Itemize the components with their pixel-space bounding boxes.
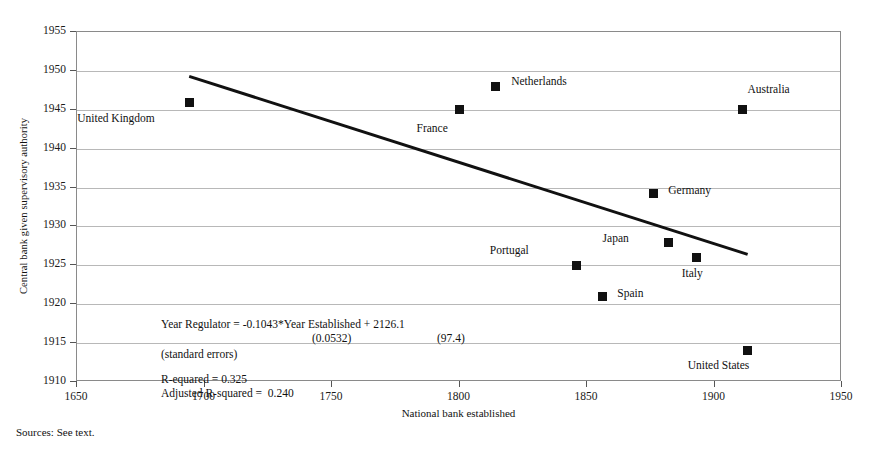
data-point-label: United Kingdom <box>77 112 155 125</box>
x-tick-mark <box>331 381 332 387</box>
annotation-r-squared: R-equared = 0.325 <box>161 373 247 386</box>
source-note: Sources: See text. <box>16 425 95 439</box>
gridline <box>77 149 840 150</box>
x-tick-label: 1750 <box>301 389 361 403</box>
data-point-marker <box>664 238 673 247</box>
x-tick-label: 1650 <box>46 389 106 403</box>
gridline <box>77 226 840 227</box>
y-tick-label: 1915 <box>26 336 66 348</box>
annotation-se-caption: (standard errors) <box>161 348 237 361</box>
y-tick-label: 1935 <box>26 181 66 193</box>
y-tick-label: 1910 <box>26 375 66 387</box>
data-point-marker <box>185 98 194 107</box>
y-tick-label: 1940 <box>26 142 66 154</box>
data-point-marker <box>649 189 658 198</box>
x-tick-mark <box>841 381 842 387</box>
data-point-label: Netherlands <box>511 75 567 88</box>
x-axis-title: National bank established <box>76 406 841 420</box>
y-tick-label: 1920 <box>26 297 66 309</box>
y-tick-label: 1930 <box>26 219 66 231</box>
data-point-marker <box>572 261 581 270</box>
data-point-label: Italy <box>682 267 703 280</box>
data-point-label: United States <box>688 359 750 372</box>
x-tick-mark <box>714 381 715 387</box>
data-point-label: Spain <box>617 287 643 300</box>
x-tick-label: 1850 <box>556 389 616 403</box>
x-tick-label: 1800 <box>429 389 489 403</box>
data-point-label: France <box>417 122 448 135</box>
data-point-marker <box>743 346 752 355</box>
y-tick-label: 1945 <box>26 103 66 115</box>
annotation-se-intercept: (97.4) <box>437 332 465 345</box>
data-point-marker <box>455 105 464 114</box>
figure-scatter-plot: Central bank given supervisory authority… <box>0 0 875 449</box>
plot-area: United KingdomFranceNetherlandsAustralia… <box>76 31 841 381</box>
annotation-equation: Year Regulator = -0.1043*Year Establishe… <box>161 318 405 331</box>
data-point-marker <box>738 105 747 114</box>
data-point-marker <box>491 82 500 91</box>
data-point-marker <box>598 292 607 301</box>
gridline <box>77 188 840 189</box>
y-tick-label: 1950 <box>26 64 66 76</box>
data-point-marker <box>692 253 701 262</box>
gridline <box>77 304 840 305</box>
x-tick-mark <box>586 381 587 387</box>
y-axis-title: Central bank given supervisory authority <box>16 31 32 381</box>
y-tick-label: 1955 <box>26 25 66 37</box>
data-point-label: Portugal <box>490 244 529 257</box>
gridline <box>77 265 840 266</box>
annotation-se-slope: (0.0532) <box>312 332 351 345</box>
x-tick-label: 1900 <box>684 389 744 403</box>
gridline <box>77 71 840 72</box>
data-point-label: Australia <box>748 83 790 96</box>
regression-line <box>189 76 747 254</box>
x-tick-label: 1950 <box>811 389 871 403</box>
data-point-label: Japan <box>603 232 629 245</box>
y-tick-label: 1925 <box>26 258 66 270</box>
x-tick-mark <box>459 381 460 387</box>
x-tick-mark <box>76 381 77 387</box>
data-point-label: Germany <box>668 184 711 197</box>
annotation-adj-r-squared: Adjusted R-squared = 0.240 <box>161 387 294 400</box>
